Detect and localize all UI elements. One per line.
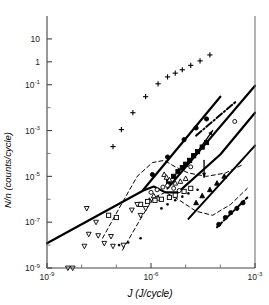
y-tick-label: 10-9 [25,262,41,274]
marker-filled-circles-upper [204,117,208,121]
marker-open-squares [153,198,157,202]
marker-open-down-triangles [138,213,143,218]
marker-small-dots [118,244,121,247]
marker-plus-markers [165,74,170,79]
y-tick-label: 1 [35,57,40,67]
marker-open-down-triangles [82,244,87,249]
axis-tick-labels: 10110-110-310-510-710-910-910-610-3 [25,34,263,282]
marker-open-squares [159,197,163,201]
marker-filled-circles-lower-right [241,201,245,205]
marker-plus-markers [110,144,115,149]
marker-open-down-triangles [109,234,114,239]
trend-line-mid-solid-trend [168,86,255,189]
marker-plus-markers [197,58,202,63]
marker-small-dots [139,237,142,240]
marker-small-dots [181,195,184,198]
marker-plus-markers [188,63,193,68]
marker-filled-circles-lower-right [217,222,221,226]
marker-plus-markers [173,71,178,76]
marker-open-circles [233,119,237,123]
y-tick-label: 10-1 [25,78,41,90]
marker-filled-circles-upper [150,172,154,176]
y-tick-label: 10-3 [25,124,41,136]
marker-open-circles [172,186,176,190]
marker-open-down-triangles [121,243,126,248]
marker-plus-markers [130,110,135,115]
marker-filled-squares [188,158,192,162]
marker-small-dots [174,199,177,202]
marker-filled-squares [200,145,204,149]
marker-open-triangles-up [183,176,188,181]
marker-open-down-triangles [143,206,148,211]
marker-open-squares [173,193,177,197]
y-axis-label: N/n (counts/cycle) [2,132,13,208]
y-tick-label: 10 [31,34,41,44]
marker-small-dots [166,203,169,206]
chart-root: 10110-110-310-510-710-910-910-610-3 J (J… [0,0,269,305]
marker-open-squares [146,199,150,203]
marker-open-circles [177,189,181,193]
marker-filled-triangles-lower [194,200,199,205]
marker-filled-triangles-lower [222,174,227,179]
marker-open-down-triangles [94,220,99,225]
marker-filled-circles-upper [165,155,169,159]
marker-filled-circles-upper [182,138,186,142]
x-tick-label: 10-9 [40,270,56,282]
marker-filled-squares [192,154,196,158]
arrowhead [202,173,206,178]
marker-plus-markers [207,52,212,57]
marker-plus-markers [119,127,124,132]
marker-plus-markers [143,94,148,99]
marker-open-squares [107,213,111,217]
marker-open-circles [161,185,165,189]
marker-open-circles [166,183,170,187]
marker-open-squares [189,186,193,190]
marker-filled-squares [176,170,180,174]
marker-open-squares [167,195,171,199]
marker-small-dots [127,241,130,244]
x-axis-label: J (J/cycle) [127,288,173,299]
x-tick-label: 10-3 [248,270,264,282]
marker-open-squares [114,215,118,219]
marker-small-dots [160,207,163,210]
log-log-scatter-plot: 10110-110-310-510-710-910-910-610-3 J (J… [0,0,269,305]
marker-filled-squares [204,140,208,144]
marker-open-triangles-up [178,179,183,184]
marker-open-circles [155,188,159,192]
marker-small-dots [196,188,199,191]
marker-filled-triangles-lower [207,187,212,192]
marker-filled-triangles-lower [200,193,205,198]
marker-plus-markers [180,67,185,72]
trend-line-envelope-dashed-lower [122,188,247,250]
marker-filled-squares [195,150,199,154]
x-tick-label: 10-6 [144,270,160,282]
y-tick-label: 10-7 [25,216,41,228]
marker-open-down-triangles [86,232,91,237]
marker-filled-triangles-lower [215,181,220,186]
marker-open-down-triangles [129,208,134,213]
marker-open-down-triangles [96,234,101,239]
plot-markers [65,52,245,270]
trend-line-lower-solid-trend [188,146,255,219]
marker-open-squares [182,189,186,193]
marker-filled-circles-upper [194,126,198,130]
marker-filled-squares [172,174,176,178]
marker-small-dots [187,192,190,195]
marker-filled-circles-lower-right [229,211,233,215]
marker-plus-markers [155,81,160,86]
plot-lines [47,86,255,250]
marker-open-down-triangles [84,206,89,211]
marker-open-down-triangles [102,241,107,246]
marker-open-down-triangles [111,244,116,249]
marker-filled-circles-lower-right [223,215,227,219]
y-tick-label: 10-5 [25,170,41,182]
plot-axes [47,16,255,268]
marker-open-circles [189,165,193,169]
marker-open-circles [149,190,153,194]
marker-filled-circles-lower-right [235,206,239,210]
